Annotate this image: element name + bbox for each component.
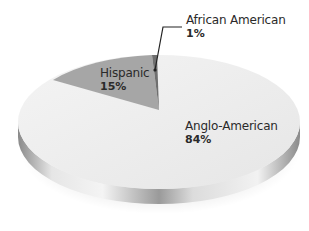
label-name: Anglo-American <box>185 120 278 133</box>
label-percent: 15% <box>100 80 150 93</box>
leader-dot <box>153 68 156 71</box>
label-percent: 1% <box>186 27 286 40</box>
label-african-american: African American 1% <box>186 14 286 40</box>
label-hispanic: Hispanic 15% <box>100 67 150 93</box>
label-name: African American <box>186 14 286 27</box>
label-name: Hispanic <box>100 67 150 80</box>
label-anglo-american: Anglo-American 84% <box>185 120 278 146</box>
label-percent: 84% <box>185 133 278 146</box>
